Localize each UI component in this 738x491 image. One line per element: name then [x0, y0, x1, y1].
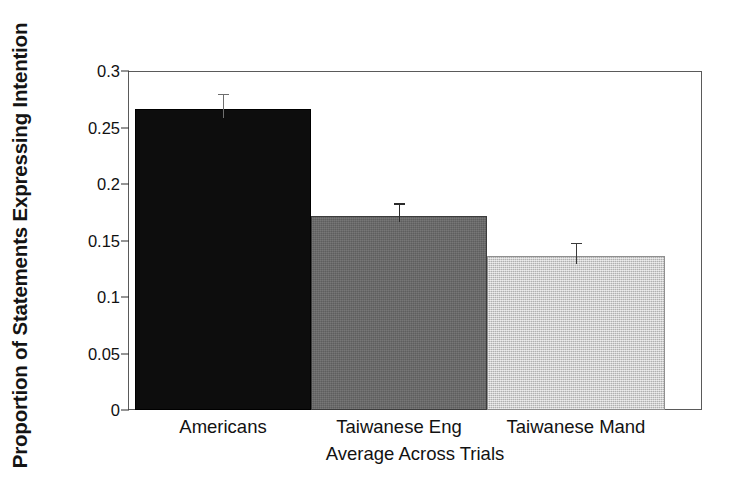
error-bar-americans	[218, 94, 229, 119]
error-bar-stem	[399, 203, 401, 222]
x-axis-title: Average Across Trials	[128, 443, 702, 465]
error-bar-stem	[223, 94, 225, 119]
bar-americans	[135, 109, 311, 410]
bar-chart-figure: Proportion of Statements Expressing Inte…	[0, 0, 738, 491]
bar-taiwanese-eng	[311, 216, 487, 410]
y-tick-label: 0.05	[58, 344, 120, 363]
error-bar-cap	[218, 94, 229, 96]
bars-layer	[128, 71, 702, 410]
bar-taiwanese-mand	[487, 256, 665, 410]
y-tick-label: 0.25	[58, 118, 120, 137]
error-bar-taiwanese-eng	[394, 203, 405, 222]
y-tick-label: 0.1	[58, 288, 120, 307]
y-tick-label: 0.3	[58, 62, 120, 81]
x-axis-tick-labels: AmericansTaiwanese EngTaiwanese Mand	[128, 416, 702, 444]
y-tick-mark	[121, 127, 129, 128]
y-tick-mark	[121, 71, 129, 72]
y-tick-mark	[121, 184, 129, 185]
y-tick-mark	[121, 240, 129, 241]
y-tick-mark	[121, 410, 129, 411]
y-tick-mark	[121, 297, 129, 298]
error-bar-stem	[576, 243, 578, 264]
y-tick-label: 0.2	[58, 175, 120, 194]
y-axis-title: Proportion of Statements Expressing Inte…	[0, 0, 40, 491]
error-bar-taiwanese-mand	[571, 243, 582, 264]
error-bar-cap	[394, 203, 405, 205]
y-tick-mark	[121, 353, 129, 354]
error-bar-cap	[571, 243, 582, 245]
y-tick-label: 0.15	[58, 231, 120, 250]
x-tick-label: Taiwanese Mand	[457, 416, 695, 438]
